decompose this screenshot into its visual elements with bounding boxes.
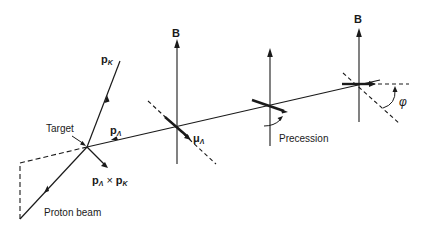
field-arrow-icon <box>267 48 273 57</box>
pK-label: pK <box>101 53 114 66</box>
lambda-precession-diagram: pK Target pΛ μΛ pΛ×pK Proton beam B B Pr… <box>0 0 422 235</box>
phi-angle-arc-icon <box>383 90 395 108</box>
precession-label: Precession <box>279 133 328 144</box>
beam-arrow-icon <box>44 186 49 194</box>
station-1 <box>148 39 216 164</box>
B-field-label-3: B <box>354 13 362 25</box>
target-pointer <box>72 136 86 146</box>
station-2 <box>252 48 288 146</box>
station-3 <box>342 28 409 124</box>
precession-arc-icon <box>264 120 280 126</box>
B-field-label-1: B <box>172 27 180 39</box>
muLambda-label: μΛ <box>193 132 205 145</box>
cross-product-vector <box>87 147 108 168</box>
cross-arrow-icon <box>101 162 108 168</box>
B-arrow-icon <box>356 28 362 37</box>
target-label: Target <box>46 123 74 134</box>
proton-beam-label: Proton beam <box>44 207 101 218</box>
pLambda-label: pΛ <box>110 124 122 137</box>
lambda-trajectory <box>87 80 380 147</box>
cross-product-label: pΛ×pK <box>92 174 129 187</box>
B-arrow-icon <box>174 39 180 48</box>
phi-angle-label: φ <box>399 95 407 109</box>
